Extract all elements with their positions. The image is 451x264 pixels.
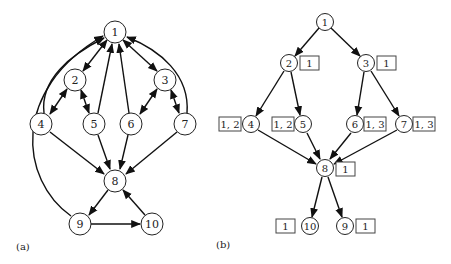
edge-a-10-8 <box>123 190 145 215</box>
edge-a-6-8 <box>120 135 128 169</box>
svg-text:9: 9 <box>342 221 348 232</box>
svg-text:1: 1 <box>306 58 312 69</box>
svg-text:1: 1 <box>322 17 328 28</box>
edge-b-7-8 <box>334 130 397 164</box>
svg-text:10: 10 <box>304 221 317 232</box>
node-a-3: 3 <box>154 69 176 91</box>
tag-b-8: 1 <box>336 162 355 176</box>
node-a-2: 2 <box>64 69 86 91</box>
edge-a-8-9 <box>89 190 108 215</box>
svg-text:2: 2 <box>72 74 79 87</box>
edge-b-8-10 <box>312 177 322 217</box>
panel-a-label: (a) <box>16 241 30 252</box>
svg-text:4: 4 <box>248 119 254 130</box>
panel-b-nodes: 1 2 1 3 1 4 1, 2 5 1, 2 6 1, 3 7 1, 3 8 … <box>219 14 435 235</box>
panel-a-nodes: 1 2 3 4 5 6 7 8 9 10 <box>30 21 196 235</box>
node-a-7: 7 <box>174 113 196 135</box>
svg-text:1: 1 <box>282 221 288 232</box>
svg-text:6: 6 <box>352 119 358 130</box>
svg-text:6: 6 <box>128 118 135 131</box>
svg-text:1: 1 <box>112 26 119 39</box>
edge-b-2-5 <box>291 72 300 115</box>
diagram-canvas: 1 2 3 4 5 6 7 8 9 10 (a) 1 2 1 3 1 4 1, … <box>0 0 451 264</box>
node-a-5: 5 <box>83 113 105 135</box>
edge-a-7-8 <box>126 132 177 174</box>
edge-b-2-4 <box>256 71 284 116</box>
svg-text:9: 9 <box>77 218 84 231</box>
svg-text:1, 2: 1, 2 <box>220 119 239 130</box>
node-b-4: 4 <box>243 116 260 133</box>
node-b-10: 10 <box>302 218 319 235</box>
tag-b-4: 1, 2 <box>219 117 241 131</box>
node-a-6: 6 <box>120 113 142 135</box>
svg-text:8: 8 <box>112 175 119 188</box>
svg-text:10: 10 <box>145 218 159 231</box>
edge-a-5-1 <box>98 44 112 113</box>
svg-text:2: 2 <box>286 58 292 69</box>
svg-text:8: 8 <box>322 163 328 174</box>
edge-b-1-2 <box>295 28 319 56</box>
edge-a-5-8 <box>98 135 110 169</box>
tag-b-6: 1, 3 <box>364 117 386 131</box>
edge-a-4-8 <box>50 132 104 174</box>
edge-b-1-3 <box>331 28 360 56</box>
svg-text:7: 7 <box>401 119 407 130</box>
tag-b-10: 1 <box>276 219 295 233</box>
node-b-6: 6 <box>347 116 364 133</box>
panel-b-label: (b) <box>216 239 230 250</box>
edge-a-3-7 <box>171 90 179 113</box>
edge-a-2-5 <box>81 90 89 113</box>
node-b-8: 8 <box>317 160 334 177</box>
svg-text:1, 3: 1, 3 <box>365 119 384 130</box>
svg-text:1: 1 <box>342 164 348 175</box>
edge-b-5-8 <box>307 133 320 159</box>
node-b-9: 9 <box>337 218 354 235</box>
edge-a-2-4 <box>50 89 67 114</box>
edge-b-8-9 <box>328 177 342 217</box>
tag-b-2: 1 <box>300 56 319 70</box>
node-b-5: 5 <box>295 116 312 133</box>
svg-text:1: 1 <box>383 58 389 69</box>
svg-text:3: 3 <box>363 58 369 69</box>
edge-a-1-3 <box>123 40 157 71</box>
edge-b-6-8 <box>330 133 351 159</box>
node-b-3: 3 <box>358 55 375 72</box>
node-b-1: 1 <box>317 14 334 31</box>
svg-text:1: 1 <box>362 221 368 232</box>
node-a-1: 1 <box>104 21 126 43</box>
svg-text:5: 5 <box>91 118 98 131</box>
svg-text:4: 4 <box>38 118 45 131</box>
svg-text:7: 7 <box>182 118 189 131</box>
node-a-9: 9 <box>69 213 91 235</box>
panel-a-edges <box>33 36 188 224</box>
tag-b-5: 1, 2 <box>272 117 294 131</box>
node-a-4: 4 <box>30 113 52 135</box>
node-b-2: 2 <box>281 55 298 72</box>
edge-a-6-1 <box>119 44 129 113</box>
node-a-8: 8 <box>104 170 126 192</box>
tag-b-7: 1, 3 <box>413 117 435 131</box>
svg-text:3: 3 <box>162 74 169 87</box>
edge-b-3-6 <box>357 72 364 115</box>
svg-text:1, 3: 1, 3 <box>414 119 433 130</box>
edge-b-3-7 <box>371 71 399 116</box>
svg-text:5: 5 <box>300 119 306 130</box>
node-b-7: 7 <box>396 116 413 133</box>
tag-b-3: 1 <box>377 56 396 70</box>
tag-b-9: 1 <box>356 219 375 233</box>
edge-a-3-6 <box>140 89 157 114</box>
svg-text:1, 2: 1, 2 <box>273 119 292 130</box>
node-a-10: 10 <box>141 213 163 235</box>
edge-a-1-2 <box>83 40 107 71</box>
